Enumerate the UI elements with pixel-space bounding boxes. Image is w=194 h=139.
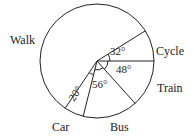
train-angle-arc	[104, 61, 108, 69]
walk-label: Walk	[10, 33, 35, 47]
bus-angle-label: 56°	[92, 78, 107, 90]
cycle-angle-label: 32°	[110, 45, 125, 57]
train-angle-label: 48°	[116, 63, 131, 75]
train-label: Train	[157, 81, 183, 95]
bus-angle-arc	[95, 68, 103, 70]
cycle-label: Cycle	[156, 44, 184, 58]
car-label: Car	[52, 120, 69, 134]
pie-chart: 32° 48° 56° 20° Walk Cycle Train Bus Car	[0, 0, 194, 139]
car-angle-label: 20°	[66, 84, 85, 103]
car-angle-arc	[89, 73, 93, 75]
bus-label: Bus	[110, 120, 129, 134]
